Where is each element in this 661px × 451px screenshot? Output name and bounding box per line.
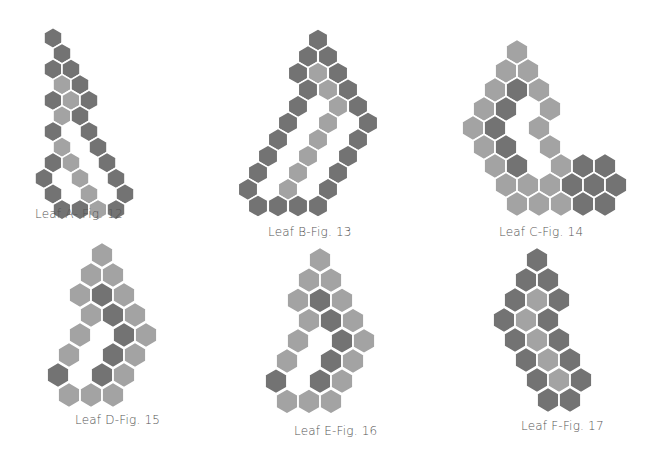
dark-hexagon	[572, 191, 594, 216]
leaf-f-figure	[493, 247, 592, 412]
light-hexagon	[506, 191, 528, 216]
dark-hexagon	[559, 387, 581, 412]
dark-hexagon	[288, 195, 308, 218]
dark-hexagon	[594, 191, 616, 216]
light-hexagon	[298, 389, 320, 414]
label-leaf-d: Leaf D-Fig. 15	[75, 413, 160, 427]
leaf-e-figure	[265, 247, 375, 414]
leaf-a-figure	[35, 28, 134, 220]
leaf-d-figure	[47, 242, 157, 407]
light-hexagon	[320, 389, 342, 414]
dark-hexagon	[268, 195, 288, 218]
light-hexagon	[550, 191, 572, 216]
dark-hexagon	[308, 195, 328, 218]
label-leaf-e: Leaf E-Fig. 16	[294, 424, 377, 438]
leaf-c-figure	[462, 39, 627, 216]
light-hexagon	[276, 389, 298, 414]
light-hexagon	[102, 382, 124, 407]
light-hexagon	[58, 382, 80, 407]
label-leaf-a: Leaf A- Fig. 12	[35, 207, 123, 221]
label-leaf-c: Leaf C-Fig. 14	[499, 225, 583, 239]
light-hexagon	[528, 191, 550, 216]
leaf-b-figure	[238, 29, 378, 218]
light-hexagon	[80, 382, 102, 407]
dark-hexagon	[537, 387, 559, 412]
dark-hexagon	[248, 195, 268, 218]
label-leaf-b: Leaf B-Fig. 13	[268, 225, 352, 239]
label-leaf-f: Leaf F-Fig. 17	[521, 419, 604, 433]
